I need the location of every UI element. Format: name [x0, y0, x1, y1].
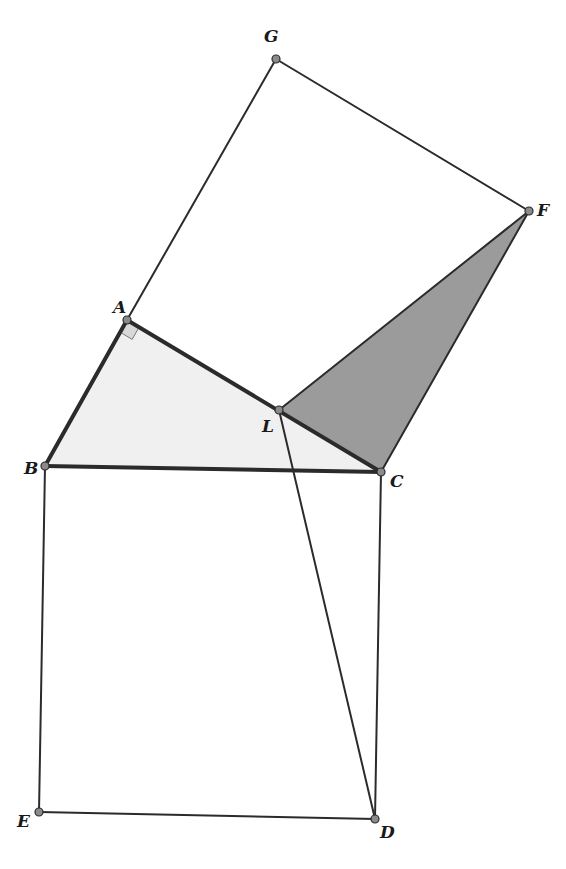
- point-F: [525, 207, 533, 215]
- segment-GF: [276, 59, 529, 211]
- segment-BE: [39, 466, 45, 812]
- point-B: [41, 462, 49, 470]
- segment-DC: [375, 472, 381, 819]
- point-A: [123, 316, 131, 324]
- point-L: [275, 406, 283, 414]
- segment-ED: [39, 812, 375, 819]
- point-D: [371, 815, 379, 823]
- label-B: B: [23, 458, 38, 478]
- label-E: E: [16, 811, 31, 831]
- label-A: A: [111, 297, 126, 317]
- label-C: C: [390, 471, 404, 491]
- segment-AG: [127, 59, 276, 320]
- label-F: F: [536, 200, 551, 220]
- label-L: L: [261, 416, 274, 436]
- filled-regions: [45, 211, 529, 472]
- label-G: G: [264, 26, 279, 46]
- label-D: D: [379, 822, 395, 842]
- point-E: [35, 808, 43, 816]
- point-C: [377, 468, 385, 476]
- geometry-diagram: GFALBCED: [0, 0, 566, 869]
- point-G: [272, 55, 280, 63]
